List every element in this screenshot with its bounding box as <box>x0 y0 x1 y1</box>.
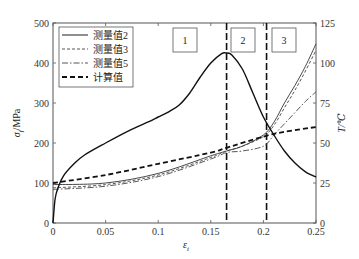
y-right-tick-label: 50 <box>320 138 330 149</box>
legend-item-label: 测量值3 <box>93 43 128 55</box>
y-left-tick-label: 500 <box>34 18 49 29</box>
strain-stress-temperature-chart: 00.050.10.150.20.25010020030040050002550… <box>0 0 359 259</box>
region-label: 2 <box>241 35 246 46</box>
y-right-tick-label: 75 <box>320 98 330 109</box>
x-tick-label: 0.05 <box>97 226 115 237</box>
region-markers: 123 <box>173 23 296 223</box>
x-axis-title: εt <box>183 239 190 253</box>
y-left-axis-title: σf/MPa <box>11 108 25 137</box>
legend-item-label: 测量值2 <box>93 29 128 41</box>
x-tick-label: 0.2 <box>257 226 270 237</box>
x-tick-label: 0 <box>51 226 56 237</box>
y-left-tick-label: 100 <box>34 178 49 189</box>
x-tick-label: 0.15 <box>202 226 220 237</box>
region-label: 1 <box>183 35 188 46</box>
y-right-tick-label: 25 <box>320 178 330 189</box>
legend-item-label: 计算值 <box>93 71 123 83</box>
legend: 测量值2测量值3测量值5计算值 <box>59 27 133 87</box>
legend-item-label: 测量值5 <box>93 57 128 69</box>
y-right-tick-label: 100 <box>320 58 335 69</box>
y-right-axis-title: T/℃ <box>336 113 347 133</box>
region-label: 3 <box>282 35 287 46</box>
y-right-tick-label: 0 <box>320 218 325 229</box>
y-left-tick-label: 200 <box>34 138 49 149</box>
x-tick-label: 0.1 <box>152 226 165 237</box>
temperature-curve <box>53 127 316 183</box>
y-right-tick-label: 125 <box>320 18 335 29</box>
y-left-tick-label: 0 <box>44 218 49 229</box>
temperature-curve <box>53 92 316 190</box>
y-left-tick-label: 300 <box>34 98 49 109</box>
y-left-tick-label: 400 <box>34 58 49 69</box>
